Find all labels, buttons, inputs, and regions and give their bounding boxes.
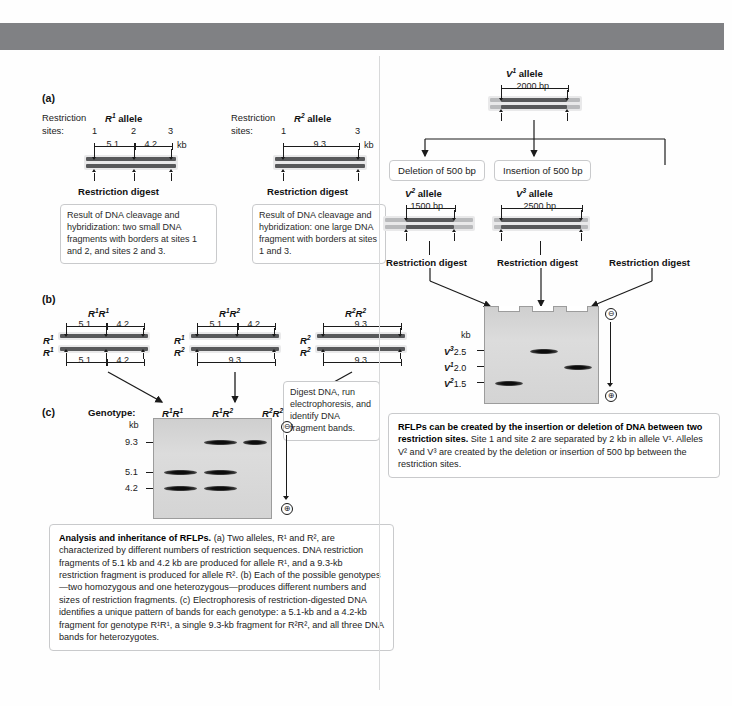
v3-length-value: 2500 bp bbox=[522, 201, 558, 211]
panel-c-marker-9-3: 9.3 bbox=[125, 437, 138, 448]
panel-b-g2-top-seg1: 5.1 bbox=[208, 319, 224, 329]
panel-b-g1-tick-3 bbox=[143, 328, 144, 334]
allele-letter: R bbox=[105, 113, 112, 124]
main-caption-box: Analysis and inheritance of RFLPs. (a) T… bbox=[49, 524, 394, 651]
genotype-sup-b: 2 bbox=[363, 307, 367, 314]
panel-a-right-tick-bottom-3 bbox=[358, 173, 359, 181]
v3-length-bracket: 2500 bp bbox=[501, 205, 583, 212]
panel-b-g1-top-allele-label: R1 bbox=[43, 334, 54, 346]
marker-value: 2.5 bbox=[454, 347, 467, 357]
genotype-letter-b: R bbox=[356, 308, 363, 319]
figure-page: (a) Restriction sites: R1 allele 1 2 3 5… bbox=[0, 0, 732, 706]
v-gel-band-lane2-2.5 bbox=[530, 349, 558, 354]
v-gel-band-lane1-1.5 bbox=[495, 381, 523, 386]
panel-a-right-seg1-value: 9.3 bbox=[312, 139, 328, 149]
v-gel-well-2 bbox=[532, 306, 554, 312]
panel-c-band-lane1-4.2 bbox=[164, 486, 197, 491]
v-gel bbox=[484, 306, 599, 404]
panel-c-marker-5-1: 5.1 bbox=[125, 467, 138, 478]
allele-letter: R bbox=[43, 347, 50, 358]
panel-b-g2-bot-seg1: 9.3 bbox=[227, 355, 243, 365]
panel-b-g1-tick-2 bbox=[106, 328, 107, 334]
v-gel-band-lane3-2.0 bbox=[564, 365, 592, 370]
panel-c-gel bbox=[153, 418, 272, 519]
panel-a-left-tick-bottom-3 bbox=[171, 173, 172, 181]
panel-a-left-sites-word: sites: bbox=[42, 126, 64, 137]
v-gel-negative-pole-icon: ⊖ bbox=[605, 308, 617, 320]
allele-word: allele bbox=[529, 188, 553, 199]
panel-b-g1-bot-seg1: 5.1 bbox=[77, 355, 93, 365]
panel-a-right-unit: kb bbox=[364, 140, 374, 151]
v2-length-bracket: 1500 bp bbox=[406, 205, 456, 212]
v-gel-tick-1-5 bbox=[477, 382, 484, 383]
v3-tick-bottom-1 bbox=[501, 233, 502, 241]
main-caption-rest: (a) Two alleles, R¹ and R², are characte… bbox=[59, 533, 383, 642]
panel-b-g2-bottom-bracket-1: 9.3 bbox=[197, 359, 276, 366]
allele-letter: R bbox=[273, 408, 280, 419]
panel-a-right-restriction-word: Restriction bbox=[231, 113, 275, 124]
panel-b-g2-tick-1 bbox=[197, 328, 198, 334]
panel-c-letter: (c) bbox=[42, 406, 55, 418]
panel-b-g1-bottom-allele-label: R1 bbox=[43, 346, 54, 358]
panel-b-g1-tick-1 bbox=[66, 328, 67, 334]
v-gel-marker-2-0: V12.0 bbox=[444, 361, 466, 373]
panel-a-left-tick-bottom-2 bbox=[134, 173, 135, 181]
allele-word: allele bbox=[118, 113, 142, 124]
panel-a-left-unit: kb bbox=[177, 140, 187, 151]
panel-c-positive-pole-icon: ⊕ bbox=[281, 503, 293, 515]
panel-a-right-dna-duplex bbox=[275, 157, 365, 168]
panel-a-right-allele-title: R2 allele bbox=[294, 112, 331, 124]
panel-a-left-seg2-value: 4.2 bbox=[143, 139, 159, 149]
panel-b-g3-top-seg1: 9.3 bbox=[353, 319, 369, 329]
allele-letter: R bbox=[294, 113, 301, 124]
panel-b-g3-top-allele-label: R2 bbox=[300, 334, 311, 346]
panel-a-right-site-1: 1 bbox=[281, 126, 286, 137]
allele-superscript: 2 bbox=[230, 407, 234, 414]
allele-superscript: 2 bbox=[411, 187, 415, 194]
panel-a-right-tick-top-1 bbox=[283, 149, 284, 157]
allele-letter: R bbox=[174, 335, 181, 346]
panel-a-left-bracket-2: 4.2 bbox=[134, 143, 173, 150]
panel-b-g1-top-seg1: 5.1 bbox=[77, 319, 93, 329]
allele-superscript: 2 bbox=[307, 346, 311, 353]
v3-digest-label: Restriction digest bbox=[497, 257, 578, 268]
panel-c-tick-9-3 bbox=[146, 442, 153, 443]
v2-tick-top-1 bbox=[406, 210, 407, 218]
insertion-event-box: Insertion of 500 bp bbox=[494, 160, 591, 181]
allele-superscript: 2 bbox=[280, 407, 284, 414]
panel-a-right-note-box: Result of DNA cleavage and hybridization… bbox=[252, 204, 386, 264]
panel-c-band-lane1-5.1 bbox=[164, 470, 197, 475]
v2-tick-bottom-2 bbox=[454, 233, 455, 241]
v3-dna-duplex bbox=[494, 218, 588, 229]
panel-b-g2-top-allele-label: R1 bbox=[174, 334, 185, 346]
panel-b-g3-dna-bottom bbox=[317, 347, 405, 351]
genotype-letter-a: R bbox=[88, 308, 95, 319]
v3-allele-title: V3 allele bbox=[516, 187, 553, 199]
allele-superscript: 2 bbox=[181, 346, 185, 353]
panel-a-left-bracket-1: 5.1 bbox=[94, 143, 136, 150]
v-panel-caption-box: RFLPs can be created by the insertion or… bbox=[388, 413, 720, 478]
v3-tick-top-1 bbox=[501, 210, 502, 218]
panel-a-left-note-box: Result of DNA cleavage and hybridization… bbox=[60, 204, 217, 264]
panel-c-negative-pole-icon: ⊖ bbox=[281, 421, 293, 433]
panel-b-g1-top-seg2: 4.2 bbox=[115, 319, 131, 329]
panel-b-g2-dna-bottom bbox=[191, 347, 279, 351]
v2-digest-label: Restriction digest bbox=[386, 257, 467, 268]
v-gel-tick-2-5 bbox=[477, 350, 484, 351]
allele-letter: R bbox=[174, 347, 181, 358]
panel-a-left-site-2: 2 bbox=[131, 126, 136, 137]
panel-c-genotype-label: Genotype: bbox=[88, 407, 135, 418]
allele-superscript: 3 bbox=[522, 187, 526, 194]
panel-a-left-allele-title: R1 allele bbox=[105, 112, 142, 124]
panel-a-letter: (a) bbox=[42, 92, 55, 104]
v3-tick-bottom-2 bbox=[581, 233, 582, 241]
allele-letter: R bbox=[300, 347, 307, 358]
v1-tick-top-2 bbox=[567, 90, 568, 98]
v1-digest-label: Restriction digest bbox=[609, 257, 690, 268]
panel-a-left-restriction-word: Restriction bbox=[42, 113, 86, 124]
panel-b-genotype-2-title: R1R2 bbox=[219, 307, 240, 319]
panel-b-genotype-3-title: R2R2 bbox=[345, 307, 366, 319]
panel-b-g1-top-bracket-1: 5.1 bbox=[66, 323, 108, 330]
allele-word: allele bbox=[418, 188, 442, 199]
panel-a-right-digest-label: Restriction digest bbox=[267, 186, 348, 197]
